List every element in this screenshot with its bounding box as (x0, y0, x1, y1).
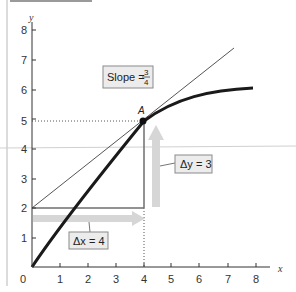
x-ticks (60, 263, 256, 267)
chart-svg: 1 2 3 4 5 6 7 8 y 0 1 2 3 4 5 6 7 8 x A … (0, 0, 296, 292)
x-tick-6: 6 (196, 273, 202, 285)
y-tick-6: 6 (21, 84, 27, 96)
y-tick-8: 8 (21, 24, 27, 36)
y-tick-5: 5 (21, 115, 27, 127)
y-tick-3: 3 (21, 173, 27, 185)
y-tick-1: 1 (21, 232, 27, 244)
x-tick-3: 3 (113, 273, 119, 285)
x-tick-5: 5 (168, 273, 174, 285)
x-axis-title: x (277, 263, 283, 274)
delta-y-leader (160, 163, 175, 166)
slope-numerator: 3 (144, 68, 149, 77)
x-tick-8: 8 (253, 273, 259, 285)
y-tick-4: 4 (21, 143, 27, 155)
origin-label: 0 (20, 273, 26, 285)
x-tick-1: 1 (57, 273, 63, 285)
delta-x-label: Δx = 4 (73, 235, 105, 247)
slope-denominator: 4 (144, 78, 149, 87)
y-axis-title: y (28, 12, 34, 23)
y-tick-2: 2 (21, 202, 27, 214)
delta-x-leader (89, 222, 90, 232)
slope-text: Slope = (107, 71, 145, 83)
delta-y-label: Δy = 3 (180, 158, 212, 170)
x-tick-4: 4 (141, 273, 147, 285)
point-a-label: A (137, 105, 145, 116)
point-a-marker (140, 118, 147, 125)
y-tick-7: 7 (21, 54, 27, 66)
scan-line (0, 146, 296, 148)
x-tick-7: 7 (225, 273, 231, 285)
x-tick-2: 2 (85, 273, 91, 285)
